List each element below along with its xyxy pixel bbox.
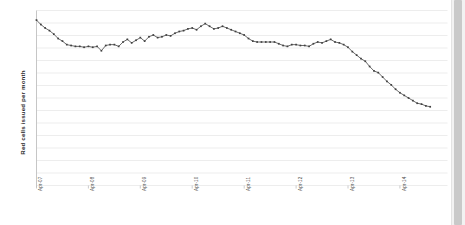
x-axis-tick-label: Apr-14 <box>402 176 407 190</box>
vertical-scrollbar-thumb[interactable] <box>454 0 462 225</box>
line-chart-plot <box>0 0 465 225</box>
x-axis-tick-label: Apr-10 <box>194 176 199 190</box>
x-axis-tick-label: Apr-09 <box>142 176 147 190</box>
x-axis-tick-label: Apr-12 <box>298 176 303 190</box>
data-series-line <box>37 20 431 107</box>
x-axis-tick-label: Apr-13 <box>350 176 355 190</box>
chart-container: Red cells issued per month Apr-07Apr-08A… <box>0 0 465 225</box>
x-axis-tick-label: Apr-07 <box>38 176 43 190</box>
vertical-scrollbar-track[interactable] <box>451 0 465 225</box>
x-axis-tick-label: Apr-08 <box>90 176 95 190</box>
data-point-markers <box>36 19 431 107</box>
x-axis-tick-label: Apr-11 <box>246 176 251 190</box>
gridlines <box>37 11 448 186</box>
